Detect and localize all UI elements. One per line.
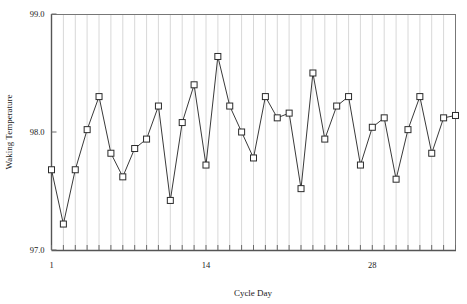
data-point-marker <box>310 70 316 76</box>
data-point-marker <box>120 174 126 180</box>
data-point-marker <box>227 103 233 109</box>
data-point-marker <box>417 94 423 100</box>
data-point-marker <box>132 146 138 152</box>
data-point-marker <box>346 94 352 100</box>
y-axis-title: Waking Temperature <box>4 94 14 169</box>
data-point-marker <box>429 150 435 156</box>
chart-background <box>0 0 467 304</box>
data-point-marker <box>155 103 161 109</box>
data-point-marker <box>203 162 209 168</box>
data-point-marker <box>381 115 387 121</box>
x-tick-label: 14 <box>202 260 211 270</box>
data-point-marker <box>405 127 411 133</box>
data-point-marker <box>298 186 304 192</box>
data-point-marker <box>215 53 221 59</box>
x-axis-title: Cycle Day <box>234 288 273 298</box>
data-point-marker <box>334 103 340 109</box>
data-point-marker <box>72 167 78 173</box>
data-point-marker <box>441 115 447 121</box>
data-point-marker <box>393 176 399 182</box>
data-point-marker <box>108 150 114 156</box>
data-point-marker <box>191 82 197 88</box>
data-point-marker <box>453 112 459 118</box>
data-point-marker <box>357 162 363 168</box>
data-point-marker <box>369 124 375 130</box>
data-point-marker <box>239 129 245 135</box>
data-point-marker <box>60 221 66 227</box>
y-tick-label: 99.0 <box>30 9 45 19</box>
data-point-marker <box>96 94 102 100</box>
data-point-marker <box>274 115 280 121</box>
waking-temperature-line-chart: 97.098.099.0 11428 Cycle Day Waking Temp… <box>0 0 467 304</box>
data-point-marker <box>251 155 257 161</box>
y-tick-label: 97.0 <box>30 245 45 255</box>
x-tick-label: 28 <box>368 260 377 270</box>
chart-container: 97.098.099.0 11428 Cycle Day Waking Temp… <box>0 0 467 304</box>
data-point-marker <box>144 136 150 142</box>
data-point-marker <box>49 167 55 173</box>
x-tick-label: 1 <box>49 260 53 270</box>
data-point-marker <box>322 136 328 142</box>
data-point-marker <box>286 110 292 116</box>
y-tick-label: 98.0 <box>30 127 45 137</box>
data-point-marker <box>167 197 173 203</box>
data-point-marker <box>179 120 185 126</box>
data-point-marker <box>84 127 90 133</box>
data-point-marker <box>262 94 268 100</box>
